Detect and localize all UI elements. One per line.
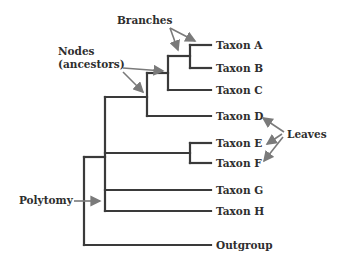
annotation-nodes: Nodes xyxy=(58,45,95,57)
arrow-nodes-1 xyxy=(123,68,163,71)
leaf-label-taxon-c: Taxon C xyxy=(216,84,263,96)
leaf-label-taxon-f: Taxon F xyxy=(216,157,262,169)
leaf-label-taxon-b: Taxon B xyxy=(216,62,263,74)
phylogenetic-tree: Taxon A Taxon B Taxon C Taxon D Taxon E … xyxy=(0,0,337,265)
leaf-label-outgroup: Outgroup xyxy=(216,239,272,251)
arrow-leaves-d xyxy=(263,118,284,132)
annotation-leaves: Leaves xyxy=(287,128,327,140)
arrow-nodes-2 xyxy=(123,72,143,92)
annotation-branches: Branches xyxy=(117,14,173,26)
annotations: Branches Nodes (ancestors) Leaves Polyto… xyxy=(19,14,327,206)
leaf-label-taxon-d: Taxon D xyxy=(216,110,263,122)
leaf-label-taxon-e: Taxon E xyxy=(216,137,262,149)
annotation-ancestors: (ancestors) xyxy=(58,58,125,70)
arrow-leaves-e xyxy=(267,134,282,144)
leaf-label-taxon-h: Taxon H xyxy=(216,205,264,217)
tree-branches xyxy=(84,45,211,245)
leaf-label-taxon-g: Taxon G xyxy=(216,184,263,196)
leaf-label-taxon-a: Taxon A xyxy=(216,39,263,51)
annotation-polytomy: Polytomy xyxy=(19,194,74,206)
leaf-labels: Taxon A Taxon B Taxon C Taxon D Taxon E … xyxy=(216,39,272,251)
